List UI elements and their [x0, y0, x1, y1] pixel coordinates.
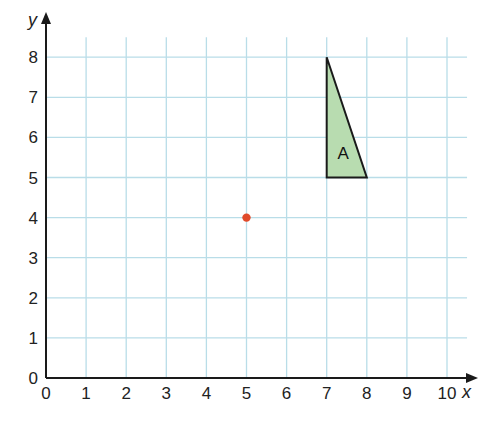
x-tick-label: 2: [121, 384, 130, 403]
y-tick-label: 4: [29, 209, 38, 228]
x-tick-label: 0: [41, 384, 50, 403]
data-point: [242, 213, 250, 221]
shape-label: A: [337, 144, 349, 163]
x-tick-label: 1: [81, 384, 90, 403]
y-tick-label: 5: [29, 169, 38, 188]
grid-lines: [46, 37, 467, 378]
x-tick-label: 4: [202, 384, 211, 403]
coordinate-grid-chart: A 012345678910012345678 x y: [0, 0, 494, 425]
y-tick-label: 7: [29, 88, 38, 107]
y-axis-arrow-icon: [41, 12, 51, 24]
shapes-layer: A: [327, 57, 367, 177]
y-tick-label: 2: [29, 289, 38, 308]
x-tick-label: 7: [322, 384, 331, 403]
x-tick-label: 8: [362, 384, 371, 403]
x-tick-label: 6: [282, 384, 291, 403]
y-tick-label: 0: [29, 369, 38, 388]
y-tick-label: 3: [29, 249, 38, 268]
x-tick-label: 3: [162, 384, 171, 403]
tick-labels: 012345678910012345678: [29, 48, 457, 403]
y-tick-label: 8: [29, 48, 38, 67]
x-axis-label: x: [461, 382, 472, 402]
y-tick-label: 1: [29, 329, 38, 348]
y-tick-label: 6: [29, 128, 38, 147]
x-tick-label: 10: [438, 384, 457, 403]
axes: [41, 12, 478, 383]
x-tick-label: 9: [402, 384, 411, 403]
points-layer: [242, 213, 250, 221]
y-axis-label: y: [26, 10, 38, 30]
x-tick-label: 5: [242, 384, 251, 403]
